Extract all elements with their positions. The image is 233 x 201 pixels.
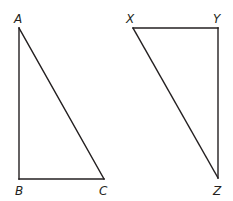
triangle-abc: A B C (13, 12, 108, 198)
vertex-label-z: Z (212, 184, 222, 198)
vertex-label-y: Y (213, 12, 222, 26)
vertex-label-c: C (99, 184, 108, 198)
vertex-label-x: X (125, 12, 135, 26)
edge-ca (19, 28, 104, 179)
vertex-label-a: A (13, 12, 22, 26)
diagram-canvas: A B C X Y Z (0, 0, 233, 201)
vertex-label-b: B (15, 184, 23, 198)
triangle-xyz: X Y Z (125, 12, 222, 198)
edge-zx (133, 28, 218, 178)
